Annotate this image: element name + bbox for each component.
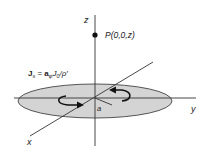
rho-divisor: /ρ′	[58, 69, 68, 78]
point-p-label: P(0,0,z)	[105, 30, 135, 40]
y-axis-label: y	[190, 104, 196, 114]
equals-sign: =	[35, 69, 44, 78]
radius-label: a	[97, 104, 101, 113]
diagram-canvas: z y x P(0,0,z) a Js = aφJ0/ρ′	[0, 0, 208, 152]
current-density-label: Js = aφJ0/ρ′	[28, 69, 68, 79]
x-axis-label: x	[26, 137, 32, 147]
z-axis-label: z	[83, 15, 89, 25]
point-p-marker	[92, 32, 97, 37]
disk-diagram: z y x P(0,0,z) a Js = aφJ0/ρ′	[0, 0, 208, 152]
